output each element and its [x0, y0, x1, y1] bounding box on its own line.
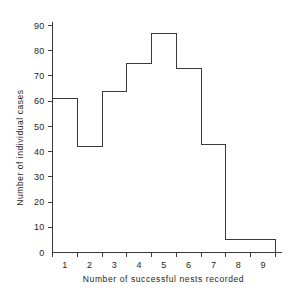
bar-series [53, 33, 276, 252]
x-tick-label: 3 [112, 260, 117, 270]
x-tick-label: 8 [236, 260, 241, 270]
y-tick-label: 70 [34, 71, 45, 81]
chart-canvas: 0102030405060708090 123456789 [0, 0, 304, 295]
y-tick-label: 40 [34, 147, 45, 157]
bar-8 [226, 240, 251, 253]
bar-4 [127, 63, 152, 252]
y-tick-label: 80 [34, 46, 45, 56]
x-tick-label: 4 [137, 260, 142, 270]
x-tick-label: 2 [87, 260, 92, 270]
x-tick-label: 1 [62, 260, 67, 270]
bar-1 [53, 99, 78, 253]
x-tick-label: 7 [211, 260, 216, 270]
y-tick-label: 90 [34, 21, 45, 31]
plot-area: 0102030405060708090 123456789 [0, 0, 304, 295]
y-tick-label: 50 [34, 122, 45, 132]
bar-6 [176, 68, 201, 252]
bar-2 [77, 147, 102, 253]
histogram-figure: Number of individual cases 0102030405060… [0, 0, 304, 295]
y-tick-label: 30 [34, 172, 45, 182]
y-tick-label: 0 [39, 248, 44, 258]
y-tick-label: 10 [34, 222, 45, 232]
x-tick-label: 9 [260, 260, 265, 270]
bar-5 [152, 33, 177, 252]
x-axis-label-text: Number of successful nests recorded [83, 274, 244, 284]
bar-3 [102, 91, 127, 252]
x-tick-label: 5 [161, 260, 166, 270]
y-tick-label: 20 [34, 197, 45, 207]
y-axis-ticks: 0102030405060708090 [34, 21, 53, 258]
x-axis-label: Number of successful nests recorded [52, 274, 275, 284]
x-tick-label: 6 [186, 260, 191, 270]
bar-7 [201, 144, 226, 252]
bar-9 [251, 240, 276, 253]
x-axis-ticks: 123456789 [53, 253, 276, 270]
y-tick-label: 60 [34, 96, 45, 106]
